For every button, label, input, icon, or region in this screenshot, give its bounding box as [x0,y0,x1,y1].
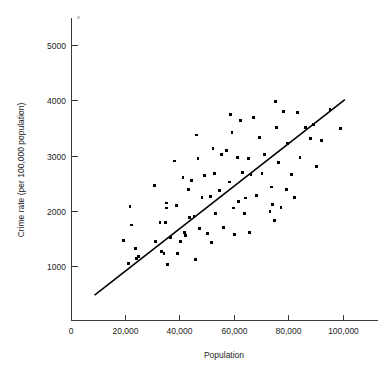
scatter-point [225,149,228,152]
scatter-point [198,227,201,230]
scatter-point [206,232,209,235]
y-axis-ticks [72,46,78,267]
scatter-point [190,179,193,182]
scatter-point [252,116,255,119]
scatter-point [164,221,167,224]
scatter-point [250,173,253,176]
x-tick-label-0: 0 [69,326,74,336]
scatter-point [320,139,323,142]
scatter-point [137,255,140,258]
scatter-point [127,262,130,265]
scatter-point [244,197,247,200]
scatter-point [165,207,168,210]
scatter-point [153,184,156,187]
scatter-point [243,212,246,215]
scatter-point [269,210,272,213]
x-tick-label-20000: 20,000 [113,326,139,336]
scatter-point [293,196,296,199]
scatter-point [236,156,239,159]
x-axis-ticks [126,315,344,321]
scatter-point [309,137,312,140]
regression-line [95,100,345,296]
scatter-point [312,123,315,126]
scatter-point [188,216,191,219]
scatter-point [165,202,168,205]
scatter-point [282,110,285,113]
y-tick-label-4000: 4000 [47,96,66,106]
regression-line-group [95,100,345,296]
scatter-point [210,241,213,244]
scatter-point [201,196,204,199]
scatter-point [209,195,212,198]
scatter-point [270,186,273,189]
scatter-point [154,240,157,243]
scatter-point [176,252,179,255]
x-tick-label-80000: 80,000 [276,326,302,336]
scatter-point [233,233,236,236]
scatter-point [241,171,244,174]
scatter-point [247,157,250,160]
scatter-point [285,188,288,191]
scatter-point [184,234,187,237]
scatter-point [304,126,307,129]
x-tick-label-100000: 100,000 [328,326,359,336]
scatter-point [130,224,133,227]
x-tick-label-40000: 40,000 [167,326,193,336]
scatter-points-group [122,100,342,265]
scatter-point [197,157,200,160]
scatter-point [273,219,276,222]
scatter-point [160,250,163,253]
scatter-point [134,247,137,250]
scatter-point [263,153,266,156]
scatter-point [274,100,277,103]
scatter-point [187,188,190,191]
y-tick-label-5000: 5000 [47,41,66,51]
chart-canvas: 5000 4000 3000 2000 1000 0 20,000 40,000… [0,0,382,374]
scatter-point [179,240,182,243]
scatter-point [286,142,289,145]
scatter-point [193,215,196,218]
scatter-plot-figure: 5000 4000 3000 2000 1000 0 20,000 40,000… [0,0,382,374]
scatter-point [220,153,223,156]
scatter-point [239,119,242,122]
scatter-point [169,236,172,239]
scatter-point [255,194,258,197]
scatter-point [175,204,178,207]
scatter-point [166,263,169,266]
scatter-point [299,156,302,159]
scatter-point [222,226,225,229]
scatter-point [232,207,235,210]
scatter-point [290,173,293,176]
y-tick-label-1000: 1000 [47,262,66,272]
scatter-point [271,203,274,206]
scatter-point [339,127,342,130]
scatter-point [229,113,232,116]
scatter-point [194,258,197,261]
scatter-point [214,212,217,215]
image-artifact-speck [77,16,80,19]
scatter-point [163,252,166,255]
scatter-point [231,131,234,134]
scatter-point [237,200,240,203]
scatter-point [173,160,176,163]
scatter-point [296,111,299,114]
scatter-point [329,108,332,111]
scatter-point [212,147,215,150]
scatter-point [258,136,261,139]
scatter-point [315,165,318,168]
scatter-point [182,176,185,179]
scatter-point [195,134,198,137]
x-tick-label-60000: 60,000 [222,326,248,336]
y-tick-label-2000: 2000 [47,207,66,217]
scatter-point [183,231,186,234]
scatter-point [213,172,216,175]
scatter-point [218,189,221,192]
scatter-point [275,126,278,129]
y-tick-label-3000: 3000 [47,152,66,162]
y-axis-title: Crime rate (per 100,000 population) [16,103,26,238]
scatter-point [248,231,251,234]
scatter-point [203,174,206,177]
scatter-point [280,206,283,209]
scatter-point [159,221,162,224]
x-axis-title: Population [204,350,244,360]
